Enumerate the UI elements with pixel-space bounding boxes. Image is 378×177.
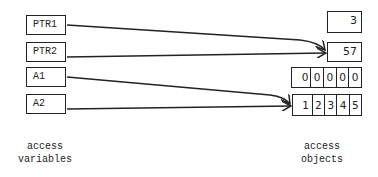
array-cell: 0 [349,68,361,87]
object-scalar-3: 3 [327,11,362,33]
object-array-values: 1 2 3 4 5 [292,94,362,116]
caption-line: variables [10,153,80,166]
caption-line: access [10,140,80,153]
variable-label: A2 [33,98,45,109]
arrow-ptr1 [67,25,325,50]
object-value: 57 [343,45,357,58]
object-value: 3 [350,14,357,27]
array-cell: 0 [311,68,324,87]
object-scalar-57: 57 [327,42,362,62]
caption-line: access [292,140,352,153]
variable-a2: A2 [26,94,66,114]
object-array-zeros: 0 0 0 0 0 [291,67,362,88]
array-cell: 0 [292,68,311,87]
arrow-ptr2 [67,53,326,57]
array-cell: 2 [313,95,325,115]
arrow-a1 [67,77,290,104]
caption-access-variables: access variables [10,140,80,166]
variable-label: PTR1 [33,19,57,30]
arrow-a2 [67,106,291,109]
variable-label: PTR2 [33,46,57,57]
variable-ptr1: PTR1 [26,15,66,35]
variable-label: A1 [33,71,45,82]
caption-line: objects [292,153,352,166]
variable-a1: A1 [26,67,66,87]
array-cell: 0 [324,68,337,87]
array-cell: 0 [337,68,350,87]
caption-access-objects: access objects [292,140,352,166]
array-cell: 1 [293,95,313,115]
array-cell: 4 [337,95,349,115]
array-cell: 3 [325,95,337,115]
variable-ptr2: PTR2 [26,42,66,62]
array-cell: 5 [350,95,361,115]
